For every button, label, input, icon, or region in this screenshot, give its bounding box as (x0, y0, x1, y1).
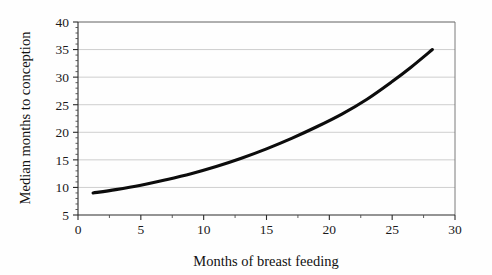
y-tick-label-30: 30 (56, 70, 70, 85)
chart-figure: 510152025303540 051015202530 Months of b… (0, 0, 492, 275)
x-tick-label-20: 20 (323, 222, 337, 237)
x-axis-title: Months of breast feeding (193, 253, 338, 269)
y-tick-label-25: 25 (56, 98, 70, 113)
x-tick-label-0: 0 (75, 222, 82, 237)
x-tick-label-5: 5 (137, 222, 144, 237)
grid-lines (78, 22, 455, 187)
y-axis-title: Median months to conception (17, 31, 33, 205)
x-axis-tick-labels: 051015202530 (75, 222, 462, 237)
x-tick-label-30: 30 (448, 222, 462, 237)
x-tick-label-25: 25 (385, 222, 399, 237)
y-tick-label-20: 20 (56, 125, 70, 140)
y-tick-label-5: 5 (62, 208, 69, 223)
y-tick-label-40: 40 (56, 15, 70, 30)
y-tick-label-35: 35 (56, 42, 70, 57)
y-axis-ticks (73, 22, 78, 215)
x-axis-ticks (78, 215, 455, 220)
line-chart: 510152025303540 051015202530 Months of b… (0, 0, 492, 275)
y-axis-tick-labels: 510152025303540 (56, 15, 70, 223)
y-tick-label-15: 15 (56, 153, 70, 168)
x-tick-label-15: 15 (260, 222, 274, 237)
y-tick-label-10: 10 (56, 180, 70, 195)
data-series-line (93, 50, 432, 193)
x-tick-label-10: 10 (197, 222, 211, 237)
